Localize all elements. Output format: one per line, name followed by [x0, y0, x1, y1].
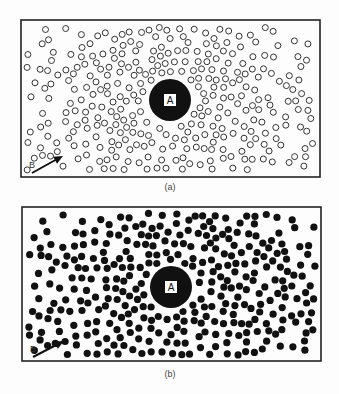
panel-b-caption: (b): [150, 369, 190, 379]
arrow-label-a: B: [29, 160, 35, 170]
central-label-a: A: [167, 95, 174, 106]
central-label-b: A: [168, 282, 175, 293]
panel-a: AB: [21, 20, 320, 177]
panel-b: AB: [22, 207, 321, 361]
panel-a-caption: (a): [150, 182, 190, 192]
arrow-label-b: B: [30, 344, 36, 354]
diagram-canvas: ABAB: [0, 0, 339, 394]
